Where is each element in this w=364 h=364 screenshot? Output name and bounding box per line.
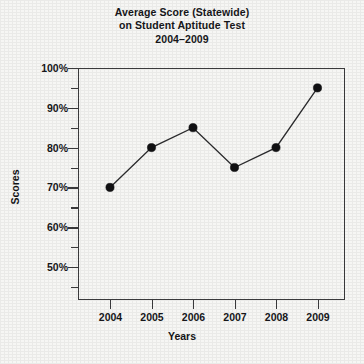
- x-tick-label-2004: 2004: [89, 311, 133, 323]
- y-tick-70: [68, 187, 78, 188]
- chart-title-line-2: on Student Aptitude Test: [0, 19, 364, 32]
- x-axis-title: Years: [0, 330, 364, 342]
- y-tick-label-100: 100%: [8, 62, 68, 74]
- x-tick-2008: [276, 300, 277, 309]
- y-tick-minor-75: [71, 168, 78, 169]
- x-tick-2006: [193, 300, 194, 309]
- y-tick-label-50: 50%: [8, 261, 68, 273]
- x-tick-label-2005: 2005: [130, 311, 174, 323]
- x-tick-label-2008: 2008: [255, 311, 299, 323]
- chart-title-line-3: 2004–2009: [0, 33, 364, 46]
- y-tick-80: [68, 148, 78, 149]
- y-tick-60: [68, 227, 78, 228]
- plot-area: [78, 68, 345, 300]
- x-tick-label-2007: 2007: [213, 311, 257, 323]
- y-tick-minor-95: [71, 88, 78, 89]
- chart-title-line-1: Average Score (Statewide): [0, 6, 364, 19]
- y-tick-minor-65: [71, 207, 78, 208]
- x-tick-2004: [110, 300, 111, 309]
- y-tick-label-80: 80%: [8, 142, 68, 154]
- y-tick-100: [68, 68, 78, 69]
- y-tick-label-60: 60%: [8, 221, 68, 233]
- y-tick-minor-55: [71, 247, 78, 248]
- x-tick-label-2006: 2006: [172, 311, 216, 323]
- y-tick-label-90: 90%: [8, 102, 68, 114]
- y-tick-minor-85: [71, 128, 78, 129]
- y-tick-minor-45: [71, 287, 78, 288]
- chart-figure: Average Score (Statewide) on Student Apt…: [0, 0, 364, 364]
- x-tick-2007: [235, 300, 236, 309]
- chart-title: Average Score (Statewide) on Student Apt…: [0, 6, 364, 46]
- y-tick-90: [68, 108, 78, 109]
- y-tick-50: [68, 267, 78, 268]
- x-tick-2009: [318, 300, 319, 309]
- x-tick-2005: [152, 300, 153, 309]
- y-tick-label-70: 70%: [8, 181, 68, 193]
- x-tick-label-2009: 2009: [296, 311, 340, 323]
